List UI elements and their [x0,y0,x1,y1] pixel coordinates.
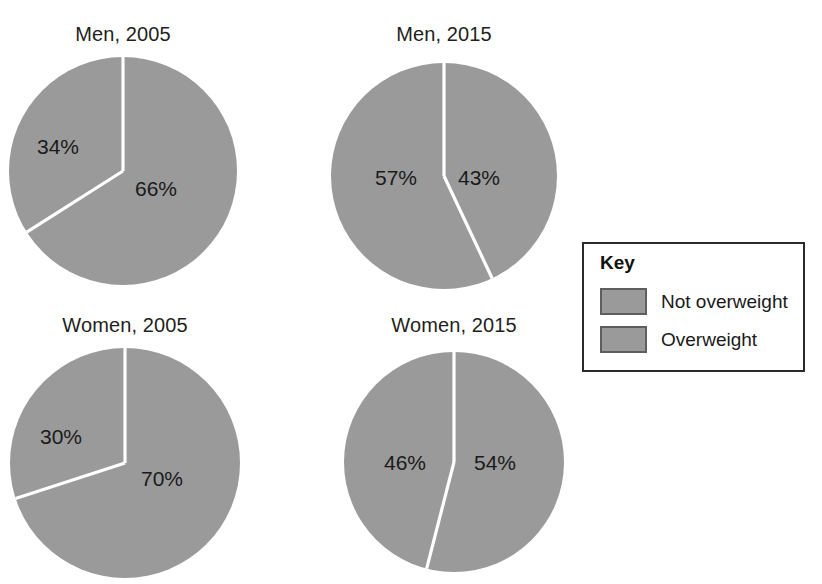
slice-label-men-2005-major: 66% [135,178,177,199]
pie-title-women-2015: Women, 2015 [354,315,554,335]
slice-label-men-2015-major: 43% [458,167,500,188]
legend-swatch-overweight [600,326,647,353]
pie-graphic-men-2015 [327,59,561,293]
slice-label-men-2005-minor: 34% [37,136,79,157]
legend-key-box: Key Not overweight Overweight [582,242,805,372]
slice-label-men-2015-minor: 57% [375,167,417,188]
legend-item-not-overweight: Not overweight [600,288,788,315]
pie-graphic-men-2005 [5,53,241,289]
slice-label-women-2015-major: 54% [474,452,516,473]
slice-label-women-2005-minor: 30% [40,426,82,447]
legend-label-not-overweight: Not overweight [661,292,788,311]
legend-item-overweight: Overweight [600,326,757,353]
slice-label-women-2005-major: 70% [141,468,183,489]
legend-title: Key [600,253,635,272]
pie-graphic-women-2015 [340,348,568,576]
pie-title-women-2005: Women, 2005 [25,315,225,335]
pie-title-men-2005: Men, 2005 [23,24,223,44]
slice-label-women-2015-minor: 46% [384,452,426,473]
pie-graphic-women-2005 [6,344,244,582]
legend-swatch-not-overweight [600,288,647,315]
pie-chart-figure: Men, 2005 66% 34% Men, 2015 43% 57% Wome… [0,0,822,584]
pie-title-men-2015: Men, 2015 [344,24,544,44]
legend-label-overweight: Overweight [661,330,757,349]
